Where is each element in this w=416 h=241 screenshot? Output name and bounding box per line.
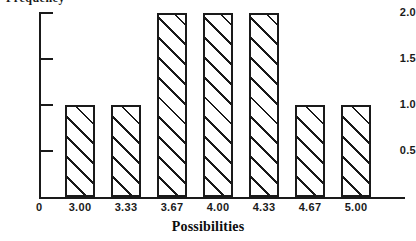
- x-tick-label: 3.33: [103, 201, 149, 213]
- x-tick-label: 4.00: [195, 201, 241, 213]
- bar: [157, 13, 187, 197]
- y-tick-mark: [41, 104, 53, 106]
- bar: [111, 105, 141, 197]
- histogram-chart: Frequency 2.01.51.00.5 0 3.003.333.674.0…: [0, 0, 416, 241]
- bar: [203, 13, 233, 197]
- y-axis-caption: Frequency: [6, 0, 65, 6]
- x-tick-label: 3.67: [149, 201, 195, 213]
- bar: [65, 105, 95, 197]
- y-tick-label: 1.5: [382, 52, 416, 64]
- y-tick-label: 2.0: [382, 6, 416, 18]
- bar: [341, 105, 371, 197]
- x-axis-line: [39, 197, 405, 199]
- x-tick-label: 4.67: [287, 201, 333, 213]
- y-tick-mark: [41, 150, 53, 152]
- x-tick-label: 3.00: [57, 201, 103, 213]
- x-tick-label: 4.33: [241, 201, 287, 213]
- origin-label: 0: [30, 201, 48, 213]
- y-tick-label: 1.0: [382, 98, 416, 110]
- bar: [295, 105, 325, 197]
- x-tick-label: 5.00: [333, 201, 379, 213]
- y-tick-mark: [41, 58, 53, 60]
- y-tick-mark: [41, 12, 53, 14]
- x-axis-title: Possibilities: [0, 219, 416, 235]
- y-tick-label: 0.5: [382, 144, 416, 156]
- bar: [249, 13, 279, 197]
